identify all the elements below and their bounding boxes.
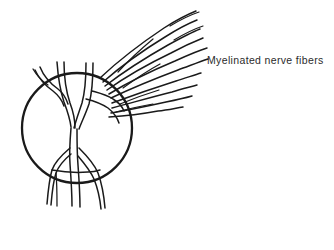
optic-disc-group — [22, 73, 132, 183]
fiber-4 — [107, 38, 203, 90]
fiber-tip-b — [174, 26, 203, 40]
optic-disc-outline — [22, 73, 132, 183]
optic-disc-diagram — [0, 0, 334, 250]
fiber-tip-a — [170, 12, 199, 26]
vessel-central-trunk-right — [77, 129, 80, 207]
vessel-inferior-left-tail — [56, 173, 57, 206]
vessel-central-trunk-left — [70, 128, 72, 206]
vessel-inferior-left-branch-outer — [47, 148, 70, 204]
vessel-inferior-crossbar — [52, 170, 100, 172]
myelinated-nerve-fibers-label: Myelinated nerve fibers — [207, 54, 324, 67]
figure-root: Myelinated nerve fibers — [0, 0, 334, 250]
